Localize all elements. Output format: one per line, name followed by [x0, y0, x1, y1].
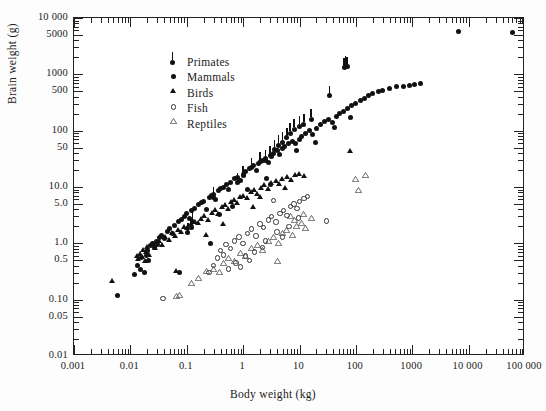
- bird-marker-icon: [257, 194, 263, 199]
- tick-mark: [74, 187, 83, 188]
- bird-marker-icon: [142, 258, 148, 263]
- legend-label: Birds: [184, 87, 213, 99]
- data-point-reptiles: [224, 265, 228, 266]
- tick-mark: [74, 260, 83, 261]
- tick-mark: [518, 192, 523, 193]
- data-point-reptiles: [245, 258, 249, 259]
- tick-mark: [518, 305, 523, 306]
- reptile-marker-icon: [300, 211, 307, 217]
- reptile-marker-icon: [242, 253, 249, 259]
- data-point-mammals: [218, 191, 221, 194]
- data-point-fish: [209, 273, 212, 276]
- mammal-marker-icon: [228, 180, 233, 185]
- data-point-reptiles: [191, 285, 195, 286]
- data-point-mammals: [364, 98, 367, 101]
- tick-mark: [460, 18, 461, 23]
- tick-mark: [463, 349, 464, 354]
- tick-mark: [297, 18, 298, 23]
- tick-mark: [439, 18, 440, 23]
- data-point-mammals: [231, 183, 234, 186]
- mammal-marker-icon: [380, 88, 385, 93]
- legend-item-mammals[interactable]: Mammals: [166, 70, 235, 86]
- tick-mark: [164, 349, 165, 354]
- y-tick-label: 100: [0, 125, 68, 135]
- primate-marker-icon: [170, 60, 175, 65]
- tick-mark: [518, 153, 523, 154]
- tick-mark: [514, 300, 523, 301]
- tick-mark: [74, 74, 83, 75]
- primate-marker-icon: [301, 122, 306, 127]
- data-point-mammals: [415, 84, 418, 87]
- tick-mark: [74, 243, 83, 244]
- tick-mark: [518, 216, 523, 217]
- data-point-fish: [250, 260, 253, 263]
- bird-marker-icon: [250, 204, 256, 209]
- tick-mark: [74, 91, 83, 92]
- reptile-marker-icon: [259, 247, 266, 253]
- tick-mark: [518, 23, 523, 24]
- tick-mark: [429, 349, 430, 354]
- legend-marker-primates-icon: [166, 54, 184, 69]
- bird-marker-icon: [203, 232, 209, 237]
- tick-mark: [512, 349, 513, 354]
- x-axis-title: Body weight (kg): [0, 388, 546, 400]
- tick-mark: [74, 170, 79, 171]
- data-point-fish: [280, 213, 283, 216]
- legend-item-primates[interactable]: Primates: [166, 54, 235, 70]
- tick-mark: [270, 18, 271, 23]
- tick-mark: [514, 317, 523, 318]
- tick-mark: [108, 18, 109, 23]
- tick-mark: [101, 349, 102, 354]
- reptile-marker-icon: [176, 292, 183, 298]
- mammal-marker-icon: [266, 160, 271, 165]
- data-point-mammals: [369, 96, 372, 99]
- data-point-fish: [163, 298, 166, 301]
- tick-mark: [234, 349, 235, 354]
- data-point-mammals: [297, 150, 300, 153]
- mammal-marker-icon: [401, 84, 406, 89]
- tick-mark: [74, 21, 79, 22]
- reptile-marker-icon: [352, 176, 359, 182]
- tick-mark: [373, 18, 374, 23]
- tick-mark: [522, 349, 523, 354]
- tick-mark: [518, 40, 523, 41]
- tick-mark: [74, 312, 79, 313]
- tick-mark: [518, 246, 523, 247]
- tick-mark: [518, 133, 523, 134]
- legend-item-fish[interactable]: Fish: [166, 101, 235, 117]
- mammal-marker-icon: [238, 178, 243, 183]
- tick-mark: [496, 18, 497, 23]
- tick-mark: [74, 97, 79, 98]
- tick-mark: [518, 273, 523, 274]
- tick-mark: [74, 246, 79, 247]
- tick-mark: [514, 131, 523, 132]
- tick-mark: [241, 18, 242, 23]
- data-point-reptiles: [294, 222, 298, 223]
- tick-mark: [74, 317, 83, 318]
- tick-mark: [74, 273, 79, 274]
- tick-mark: [74, 199, 79, 200]
- data-point-fish: [243, 243, 246, 246]
- fish-marker-icon: [236, 234, 241, 239]
- legend-item-birds[interactable]: Birds: [166, 85, 235, 101]
- tick-mark: [291, 349, 292, 354]
- data-point-reptiles: [306, 230, 310, 231]
- tick-mark: [518, 329, 523, 330]
- tick-mark: [316, 349, 317, 354]
- mammal-marker-icon: [277, 152, 282, 157]
- data-point-mammals: [336, 116, 339, 119]
- fish-marker-icon: [228, 246, 233, 251]
- tick-mark: [347, 18, 348, 23]
- mammal-marker-icon: [201, 199, 206, 204]
- tick-mark: [91, 18, 92, 23]
- tick-mark: [518, 283, 523, 284]
- tick-mark: [125, 18, 126, 23]
- data-point-reptiles: [356, 181, 360, 182]
- primate-marker-icon: [284, 135, 289, 140]
- bird-marker-icon: [282, 185, 288, 190]
- tick-mark: [74, 77, 79, 78]
- tick-mark: [333, 349, 334, 354]
- data-point-fish: [255, 252, 258, 255]
- legend-item-reptiles[interactable]: Reptiles: [166, 116, 235, 132]
- tick-mark: [469, 345, 470, 354]
